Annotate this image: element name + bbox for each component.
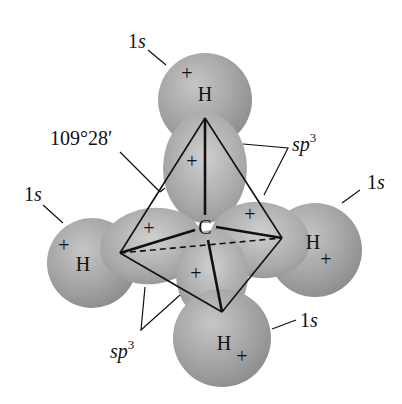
- lobe-left-plus: +: [143, 217, 154, 239]
- h-bottom-plus: +: [236, 345, 247, 367]
- h-right-plus: +: [320, 248, 331, 270]
- lobe-bottom-plus: +: [190, 262, 201, 284]
- label-1s-left: 1s: [24, 183, 42, 205]
- methane-sp3-diagram: C H H H H + + + + + + + + 1s 109°28′ sp3…: [0, 0, 402, 404]
- diagram-svg: C H H H H + + + + + + + + 1s 109°28′ sp3…: [0, 0, 402, 404]
- label-sp3-bottom: sp3: [110, 337, 134, 363]
- label-sp3-top: sp3: [292, 130, 316, 156]
- h-left-plus: +: [58, 234, 69, 256]
- label-1s-top: 1s: [128, 30, 146, 52]
- h-right-label: H: [306, 231, 320, 253]
- label-bond-angle: 109°28′: [50, 127, 112, 149]
- carbon-label: C: [198, 216, 211, 238]
- h-top-label: H: [198, 83, 212, 105]
- lobe-top-plus: +: [186, 150, 197, 172]
- h-bottom-label: H: [217, 332, 231, 354]
- h-top-plus: +: [181, 62, 192, 84]
- label-1s-bottom: 1s: [300, 309, 318, 331]
- label-1s-right: 1s: [367, 171, 385, 193]
- h-left-label: H: [76, 253, 90, 275]
- lobe-right-plus: +: [244, 203, 255, 225]
